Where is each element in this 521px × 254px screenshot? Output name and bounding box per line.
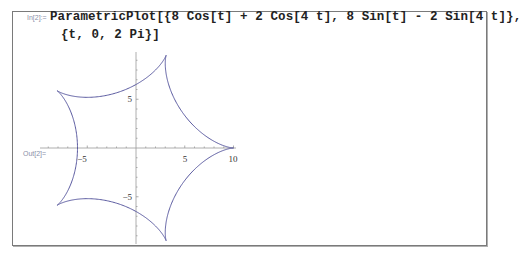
x-axis — [40, 146, 236, 149]
x-tick-label: −5 — [77, 154, 87, 164]
y-tick-label: 5 — [128, 94, 133, 104]
x-tick-label: 5 — [183, 154, 188, 164]
y-tick-label: −5 — [122, 192, 132, 202]
x-tick-label: 10 — [229, 154, 239, 164]
